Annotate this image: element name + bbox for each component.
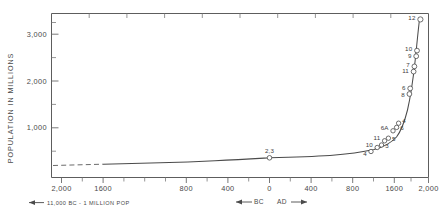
x-tick-label-400bc: 400 — [221, 184, 234, 193]
y-axis-ticks — [52, 23, 59, 152]
population-curve-dashed-extension — [53, 164, 103, 165]
marker-9[interactable] — [414, 54, 419, 59]
marker-label-6b: 6 — [402, 84, 406, 91]
x-tick-label-400ad: 400 — [304, 184, 317, 193]
y-tick-label-2000: 2,000 — [27, 77, 47, 86]
marker-6a-curve[interactable] — [394, 125, 398, 129]
footnote-arrowhead — [29, 200, 35, 205]
marker-label-6A: 6A — [381, 124, 390, 131]
footnote-annotation: 11,000 BC - 1 MILLION POP — [29, 200, 130, 206]
y-tick-label-1000: 1,000 — [27, 123, 47, 132]
marker-10a[interactable] — [375, 145, 379, 149]
marker-6A[interactable] — [391, 129, 395, 133]
marker-4a[interactable] — [369, 149, 373, 153]
marker-label-6a-curve: 6 — [400, 124, 404, 131]
ad-arrowhead — [301, 200, 307, 205]
marker-10b[interactable] — [415, 48, 420, 53]
marker-7[interactable] — [412, 64, 417, 69]
marker-label-9: 9 — [408, 52, 412, 59]
marker-label-2-3: 2,3 — [265, 147, 275, 154]
marker-label-10b: 10 — [405, 45, 413, 52]
data-point-markers: 2,3 4 10 3 11 5 6A 6 4 8 6 11 — [265, 14, 423, 160]
marker-8[interactable] — [407, 92, 412, 97]
x-tick-label-1600ad: 1600 — [385, 184, 403, 193]
marker-label-3: 3 — [385, 142, 389, 149]
x-tick-label-800bc: 800 — [180, 184, 193, 193]
y-axis-title: POPULATION IN MILLIONS — [6, 53, 15, 163]
marker-6b[interactable] — [408, 86, 413, 91]
x-tick-label-1600bc: 1600 — [94, 184, 112, 193]
x-tick-label-zero: 0 — [267, 184, 271, 193]
marker-4b[interactable] — [396, 121, 400, 125]
marker-label-11a: 11 — [374, 134, 381, 141]
marker-3[interactable] — [379, 143, 383, 147]
marker-label-12: 12 — [408, 14, 416, 21]
marker-label-4a: 4 — [363, 150, 367, 157]
marker-2-3[interactable] — [267, 156, 272, 161]
footnote-label: 11,000 BC - 1 MILLION POP — [47, 200, 130, 206]
marker-label-10a: 10 — [366, 141, 374, 148]
x-axis-ticks — [62, 178, 429, 184]
x-tick-label-2000ad: 2,000 — [418, 184, 438, 193]
era-annotation: BC AD — [236, 198, 307, 205]
marker-5[interactable] — [386, 136, 390, 140]
marker-label-5: 5 — [392, 135, 396, 142]
y-tick-label-3000: 3,000 — [27, 30, 47, 39]
marker-11b[interactable] — [411, 69, 416, 74]
marker-label-8: 8 — [401, 91, 405, 98]
x-tick-label-2000bc: 2,000 — [51, 184, 71, 193]
top-axis-ticks — [89, 14, 391, 19]
marker-12[interactable] — [418, 17, 423, 22]
chart-svg: 3,000 2,000 1,000 POPULATION IN MILLIONS — [0, 0, 439, 216]
population-chart-figure: 3,000 2,000 1,000 POPULATION IN MILLIONS — [0, 0, 439, 216]
marker-label-4b: 4 — [402, 117, 406, 124]
ad-label: AD — [277, 198, 287, 205]
x-tick-label-800ad: 800 — [346, 184, 359, 193]
marker-label-7: 7 — [406, 61, 410, 68]
bc-arrowhead — [236, 200, 242, 205]
marker-label-11b: 11 — [402, 67, 409, 74]
bc-label: BC — [254, 198, 264, 205]
